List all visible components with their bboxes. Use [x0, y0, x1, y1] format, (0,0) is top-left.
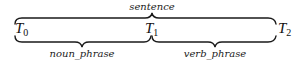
noun-phrase-label: noun_phrase [50, 48, 115, 59]
verb-phrase-brace [152, 36, 276, 47]
token-subscript: 2 [286, 27, 291, 38]
noun-phrase-brace [15, 36, 151, 47]
token-t2: T2 [278, 20, 291, 38]
token-t1: T1 [145, 20, 158, 38]
verb-phrase-label: verb_phrase [184, 48, 246, 59]
token-subscript: 1 [153, 27, 158, 38]
token-subscript: 0 [23, 27, 28, 38]
token-t0: T0 [15, 20, 28, 38]
sentence-label: sentence [129, 1, 174, 12]
